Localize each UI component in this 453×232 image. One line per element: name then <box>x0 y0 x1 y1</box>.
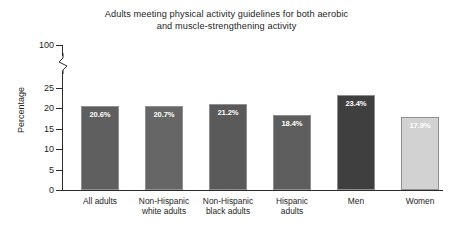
y-tick-label-100: 100 <box>14 41 54 50</box>
y-tick-5 <box>56 170 62 171</box>
bar-value-non-hispanic-black-adults: 21.2% <box>210 108 246 117</box>
y-tick-15 <box>56 129 62 130</box>
x-label-all-adults: All adults <box>70 196 130 206</box>
bar-value-all-adults: 20.6% <box>82 110 118 119</box>
y-tick-label-10: 10 <box>14 145 54 154</box>
bar-non-hispanic-white-adults[interactable]: 20.7% <box>145 106 183 191</box>
y-tick-label-5: 5 <box>14 166 54 175</box>
y-tick-25 <box>56 88 62 89</box>
bar-value-non-hispanic-white-adults: 20.7% <box>146 110 182 119</box>
x-axis-line <box>62 190 443 191</box>
x-label-women-line-1: Women <box>390 196 450 206</box>
x-label-non-hispanic-black-adults-line-2: black adults <box>195 206 261 216</box>
bar-chart: Adults meeting physical activity guideli… <box>0 0 453 232</box>
y-tick-20 <box>56 108 62 109</box>
x-label-all-adults-line-1: All adults <box>70 196 130 206</box>
y-tick-100 <box>56 45 62 46</box>
x-label-women: Women <box>390 196 450 206</box>
bar-value-men: 23.4% <box>338 99 374 108</box>
plot-area: 0 5 10 15 20 25 100 Percentage 20.6% 20.… <box>0 0 453 232</box>
x-label-non-hispanic-white-adults-line-2: white adults <box>131 206 197 216</box>
y-tick-10 <box>56 149 62 150</box>
x-label-men-line-1: Men <box>326 196 386 206</box>
y-tick-0 <box>56 190 62 191</box>
bar-men[interactable]: 23.4% <box>337 95 375 191</box>
x-label-non-hispanic-white-adults-line-1: Non-Hispanic <box>131 196 197 206</box>
bar-hispanic-adults[interactable]: 18.4% <box>273 115 311 190</box>
bar-value-hispanic-adults: 18.4% <box>274 119 310 128</box>
bar-all-adults[interactable]: 20.6% <box>81 106 119 190</box>
bar-value-women: 17.9% <box>402 121 438 130</box>
x-label-hispanic-adults: Hispanic adults <box>262 196 322 217</box>
bar-non-hispanic-black-adults[interactable]: 21.2% <box>209 104 247 191</box>
y-axis-title: Percentage <box>16 75 26 145</box>
x-label-hispanic-adults-line-1: Hispanic <box>262 196 322 206</box>
y-tick-label-0: 0 <box>14 186 54 195</box>
x-label-non-hispanic-white-adults: Non-Hispanic white adults <box>131 196 197 217</box>
bar-women[interactable]: 17.9% <box>401 117 439 190</box>
x-label-men: Men <box>326 196 386 206</box>
x-label-non-hispanic-black-adults: Non-Hispanic black adults <box>195 196 261 217</box>
axis-break-zigzag-icon <box>57 53 69 74</box>
x-label-non-hispanic-black-adults-line-1: Non-Hispanic <box>195 196 261 206</box>
x-label-hispanic-adults-line-2: adults <box>262 206 322 216</box>
